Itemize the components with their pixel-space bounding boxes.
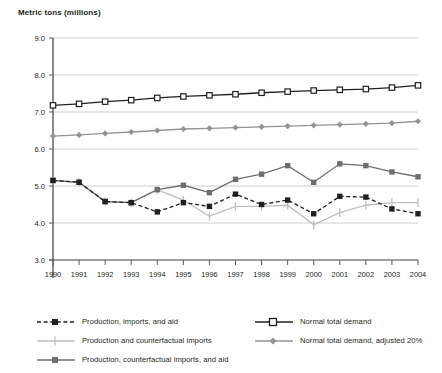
data-point-marker [181, 200, 186, 205]
data-point-marker [389, 169, 394, 174]
data-point-marker [233, 191, 238, 196]
data-point-marker [363, 86, 368, 91]
data-point-marker [207, 190, 212, 195]
data-point-marker [285, 197, 290, 202]
legend-swatch-production-imports-aid [37, 316, 75, 328]
data-point-marker [259, 202, 264, 207]
x-axis-label: 2002 [358, 270, 374, 279]
data-point-marker [50, 103, 55, 108]
legend-swatch-production-counterfactual-imports [37, 335, 75, 347]
data-point-marker [76, 180, 81, 185]
x-axis-label: 1990 [45, 270, 61, 279]
data-point-marker [155, 209, 160, 214]
x-axis-label: 1997 [227, 270, 243, 279]
data-point-marker [311, 122, 317, 128]
data-point-marker [285, 123, 291, 129]
y-axis-label: 8.0 [34, 71, 45, 80]
data-point-marker [389, 120, 395, 126]
data-point-marker [415, 174, 420, 179]
data-point-marker [415, 211, 420, 216]
data-point-marker [311, 180, 316, 185]
data-point-marker [50, 133, 56, 139]
x-axis-label: 2003 [384, 270, 400, 279]
x-axis-label: 1993 [123, 270, 139, 279]
data-point-marker [102, 99, 107, 104]
data-point-marker [206, 125, 212, 131]
legend-label-production-imports-aid: Production, imports, and aid [82, 317, 178, 326]
data-point-marker [207, 204, 212, 209]
data-point-marker [233, 92, 238, 97]
data-point-marker [259, 171, 264, 176]
data-point-marker [76, 132, 82, 138]
data-point-marker [233, 177, 238, 182]
data-point-marker [102, 130, 108, 136]
data-point-marker [129, 200, 134, 205]
data-point-marker [76, 101, 81, 106]
data-point-marker [285, 89, 290, 94]
data-point-marker [389, 85, 394, 90]
y-axis-label: 5.0 [34, 182, 45, 191]
legend-item-production-imports-aid[interactable]: Production, imports, and aid [37, 312, 229, 331]
legend-item-production-counterfactual-imports-aid[interactable]: Production, counterfactual imports, and … [37, 350, 229, 369]
legend-label-production-counterfactual-imports-aid: Production, counterfactual imports, and … [82, 355, 229, 364]
series-normal_total_demand_adjusted_20 [50, 118, 421, 139]
data-point-marker [389, 206, 394, 211]
data-point-marker [155, 187, 160, 192]
data-point-marker [337, 161, 342, 166]
data-point-marker [363, 121, 369, 127]
data-point-marker [337, 87, 342, 92]
legend-swatch-normal-total-demand [255, 316, 293, 328]
data-point-marker [337, 194, 342, 199]
chart-legend: Production, imports, and aid Production … [0, 300, 442, 373]
chart-svg: 9.08.07.06.05.04.03.01990199119921993199… [0, 0, 442, 300]
data-point-marker [363, 163, 368, 168]
legend-label-normal-total-demand-adjusted: Normal total demand, adjusted 20% [300, 336, 422, 345]
data-point-marker [311, 88, 316, 93]
data-point-marker [155, 95, 160, 100]
y-axis-label: 4.0 [34, 219, 45, 228]
legend-item-normal-total-demand[interactable]: Normal total demand [255, 312, 422, 331]
series-normal_total_demand [50, 83, 420, 108]
legend-label-normal-total-demand: Normal total demand [300, 317, 371, 326]
legend-swatch-normal-total-demand-adjusted [255, 335, 293, 347]
x-axis-label: 1999 [279, 270, 295, 279]
x-axis-label: 1991 [71, 270, 87, 279]
x-axis-label: 2004 [410, 270, 426, 279]
y-axis-label: 6.0 [34, 145, 45, 154]
data-point-marker [181, 183, 186, 188]
data-point-marker [102, 199, 107, 204]
legend-label-production-counterfactual-imports: Production and counterfactual imports [82, 336, 212, 345]
legend-item-production-counterfactual-imports[interactable]: Production and counterfactual imports [37, 331, 229, 350]
x-axis-label: 2001 [332, 270, 348, 279]
x-axis-label: 2000 [305, 270, 321, 279]
legend-column-left: Production, imports, and aid Production … [37, 312, 229, 369]
x-axis-label: 1996 [201, 270, 217, 279]
data-point-marker [337, 121, 343, 127]
y-axis-label: 3.0 [34, 256, 45, 265]
data-point-marker [363, 194, 368, 199]
y-axis-label: 7.0 [34, 108, 45, 117]
data-point-marker [180, 126, 186, 132]
data-point-marker [311, 211, 316, 216]
legend-swatch-production-counterfactual-imports-aid [37, 354, 75, 366]
data-point-marker [258, 124, 264, 130]
x-axis-label: 1998 [253, 270, 269, 279]
data-point-marker [128, 129, 134, 135]
data-point-marker [259, 90, 264, 95]
data-point-marker [181, 94, 186, 99]
data-point-marker [154, 127, 160, 133]
data-point-marker [232, 124, 238, 130]
x-axis-label: 1994 [149, 270, 165, 279]
y-axis-label: 9.0 [34, 34, 45, 43]
data-point-marker [415, 83, 420, 88]
data-point-marker [129, 97, 134, 102]
data-point-marker [415, 118, 421, 124]
legend-column-right: Normal total demand Normal total demand,… [255, 312, 422, 350]
x-axis-label: 1992 [97, 270, 113, 279]
data-point-marker [207, 93, 212, 98]
chart-plot-area: 9.08.07.06.05.04.03.01990199119921993199… [0, 0, 442, 300]
data-point-marker [50, 178, 55, 183]
x-axis-label: 1995 [175, 270, 191, 279]
data-point-marker [285, 163, 290, 168]
legend-item-normal-total-demand-adjusted[interactable]: Normal total demand, adjusted 20% [255, 331, 422, 350]
